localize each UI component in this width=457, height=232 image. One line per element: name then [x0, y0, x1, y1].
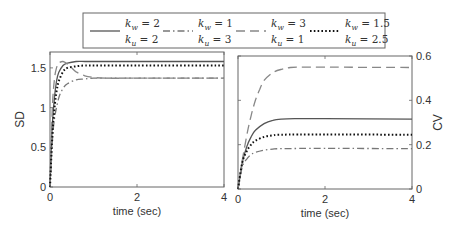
sd-ytick-label: 0	[40, 181, 46, 193]
legend: kw = 2ku = 2kw = 1ku = 3kw = 3ku = 1kw =…	[83, 13, 390, 48]
sd-ytick-label: 0.5	[31, 141, 46, 153]
cv-axes-frame	[238, 56, 412, 189]
sd-plot: k_w = 2, k_u = 2k_w = 1, k_u = 3k_w = 3,…	[13, 52, 227, 217]
sd-xtick-label: 2	[134, 191, 140, 203]
sd-xtick-label: 0	[47, 191, 53, 203]
cv-ylabel: CV	[431, 114, 445, 131]
sd-xtick-label: 4	[221, 191, 227, 203]
sd-ylabel: SD	[13, 111, 27, 128]
sd-xlabel: time (sec)	[113, 205, 161, 217]
cv-xtick-label: 4	[409, 193, 415, 205]
cv-xtick-label: 0	[235, 193, 241, 205]
cv-ytick-label: 0	[416, 183, 422, 195]
cv-ytick-label: 0.6	[416, 50, 431, 62]
cv-plot: k_w = 2, k_u = 2k_w = 1, k_u = 3k_w = 3,…	[235, 50, 445, 219]
figure: kw = 2ku = 2kw = 1ku = 3kw = 3ku = 1kw =…	[0, 0, 457, 232]
cv-xtick-label: 2	[322, 193, 328, 205]
cv-ytick-label: 0.2	[416, 139, 431, 151]
sd-ytick-label: 1	[40, 102, 46, 114]
cv-ytick-label: 0.4	[416, 94, 431, 106]
sd-ytick-label: 1.5	[31, 62, 46, 74]
cv-xlabel: time (sec)	[301, 207, 349, 219]
